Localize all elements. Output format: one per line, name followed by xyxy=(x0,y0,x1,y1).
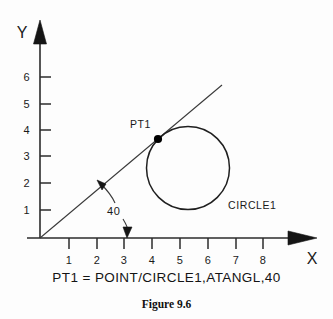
y-tick-label-3: 3 xyxy=(24,150,30,162)
angle-value-label: 40 xyxy=(107,205,120,217)
x-tick-label-2: 2 xyxy=(94,254,100,266)
y-tick-label-6: 6 xyxy=(24,71,30,83)
x-tick-label-5: 5 xyxy=(177,254,183,266)
pt1-marker xyxy=(154,135,162,143)
y-tick-label-5: 5 xyxy=(24,98,30,110)
x-tick-label-7: 7 xyxy=(233,254,239,266)
pt1-label: PT1 xyxy=(130,118,151,130)
x-axis-title: X xyxy=(307,250,318,267)
y-axis-group: 1 2 3 4 5 6 Y xyxy=(17,20,51,238)
x-tick-label-8: 8 xyxy=(260,254,266,266)
equation-caption: PT1 = POINT/CIRCLE1,ATANGL,40 xyxy=(0,270,333,285)
y-axis-arrow-icon xyxy=(34,20,47,44)
circle1-label: CIRCLE1 xyxy=(228,199,277,211)
figure-container: 1 2 3 4 5 6 Y 1 2 3 4 5 6 7 xyxy=(0,0,333,319)
figure-number-caption: Figure 9.6 xyxy=(0,298,333,310)
angle-arrow-lower-icon xyxy=(123,227,132,238)
x-axis-group: 1 2 3 4 5 6 7 8 X xyxy=(27,231,318,267)
x-axis-arrow-icon xyxy=(288,231,317,245)
x-tick-label-6: 6 xyxy=(205,254,211,266)
x-tick-label-1: 1 xyxy=(66,254,72,266)
x-tick-label-3: 3 xyxy=(121,254,127,266)
x-tick-label-4: 4 xyxy=(149,254,155,266)
y-tick-label-1: 1 xyxy=(24,204,30,216)
y-tick-label-2: 2 xyxy=(24,177,30,189)
y-axis-title: Y xyxy=(17,24,28,41)
angle-annotation-group: 40 xyxy=(97,180,132,238)
tangent-line xyxy=(40,85,222,238)
y-tick-label-4: 4 xyxy=(24,124,30,136)
